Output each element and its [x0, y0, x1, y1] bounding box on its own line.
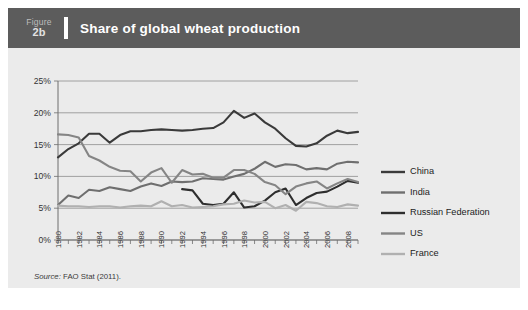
- series-line-russian-federation: [182, 181, 358, 208]
- y-tick-label: 20%: [34, 108, 52, 118]
- y-tick-label: 25%: [34, 76, 52, 86]
- y-axis-tick-labels: 0%5%10%15%20%25%: [34, 76, 52, 245]
- figure-card: Figure 2b Share of global wheat producti…: [8, 8, 520, 288]
- figure-title: Share of global wheat production: [80, 21, 300, 36]
- y-tick-label: 5%: [39, 203, 52, 213]
- chart-series-lines: [58, 111, 358, 211]
- legend-label-france: France: [410, 248, 439, 258]
- chart-legend: ChinaIndiaRussian FederationUSFrance: [381, 166, 490, 258]
- chart-area: 0%5%10%15%20%25% 19801982198419861988199…: [8, 48, 520, 288]
- legend-label-china: China: [410, 166, 435, 176]
- legend-label-russian-federation: Russian Federation: [410, 207, 490, 217]
- y-tick-label: 10%: [34, 171, 52, 181]
- source-label: Source:: [34, 272, 61, 281]
- y-tick-label: 0%: [39, 235, 52, 245]
- chart-gridlines: [58, 81, 358, 240]
- series-line-france: [58, 201, 358, 211]
- series-line-india: [58, 162, 358, 205]
- source-note: Source: FAO Stat (2011).: [34, 272, 121, 281]
- source-text: FAO Stat (2011).: [63, 272, 121, 281]
- header-divider-rule: [64, 17, 68, 39]
- y-tick-label: 15%: [34, 140, 52, 150]
- legend-label-india: India: [410, 187, 431, 197]
- figure-number-block: Figure 2b: [16, 18, 62, 38]
- figure-header-bar: Figure 2b Share of global wheat producti…: [8, 8, 520, 48]
- series-line-china: [58, 111, 358, 157]
- chart-axes: [58, 81, 358, 240]
- line-chart: 0%5%10%15%20%25% 19801982198419861988199…: [8, 48, 520, 288]
- chart-tickmarks: [54, 81, 358, 244]
- figure-number-value: 2b: [16, 27, 62, 39]
- legend-label-us: US: [410, 228, 423, 238]
